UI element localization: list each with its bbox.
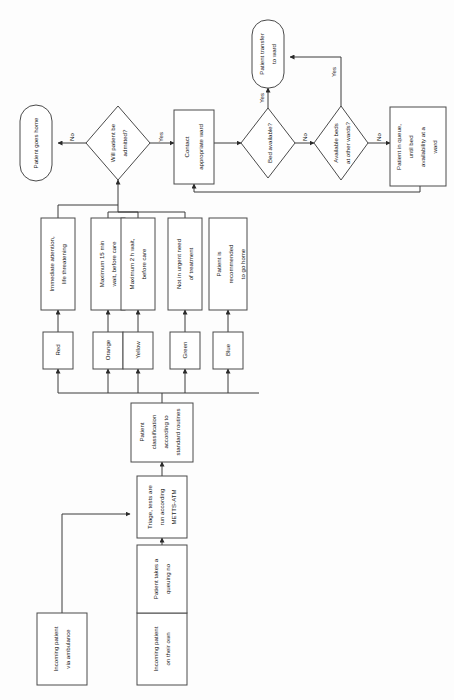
node-patient-goes-home[interactable]: Patient goes home (20, 105, 52, 181)
patient-queue-line4: ward (431, 140, 438, 154)
node-color-orange[interactable]: Orange (93, 332, 123, 369)
blue-desc-line1: Patient is (215, 251, 222, 276)
triage-line3: METTS-ATM (170, 489, 177, 524)
yellow-desc-line2: before care (140, 248, 147, 279)
classification-line2: classification (150, 415, 157, 450)
node-will-patient-be-admitted[interactable]: Will patient be admitted? (86, 106, 150, 180)
node-incoming-ambulance[interactable]: Incoming patient via ambulance (37, 613, 87, 685)
classification-line3: according to (162, 415, 169, 449)
red-desc-line2: life threatening (60, 244, 67, 284)
color-green-label: Green (181, 342, 188, 359)
node-bed-available[interactable]: Bed available? (241, 108, 295, 178)
orange-desc-line2: wait, before care (110, 241, 117, 288)
patient-queue-line1: Patient in queue, (395, 124, 402, 170)
beds-other-line1: Available beds (332, 123, 339, 163)
edge-label-bed-no: No (301, 132, 308, 140)
node-triage[interactable]: Triage, tests are run according METTS-AT… (137, 476, 187, 538)
edge-orangedesc-up (108, 212, 118, 218)
edge-ambulance-to-triage (62, 514, 130, 613)
contact-ward-line2: appropriate ward (197, 124, 204, 170)
edge-classification-bus (58, 393, 259, 403)
yellow-desc-line1: Maximum 2 h wait, (128, 238, 135, 289)
color-yellow-label: Yellow (134, 341, 141, 359)
node-color-green[interactable]: Green (170, 332, 200, 369)
node-red-description[interactable]: Immediate attention, life threatening (41, 218, 75, 310)
blue-desc-line3: to go home (239, 248, 246, 279)
patient-transfer-line2: to ward (270, 44, 277, 64)
edge-label-bed-yes: Yes (258, 93, 265, 103)
edge-greendesc-up (118, 212, 185, 218)
color-blue-label: Blue (224, 343, 231, 356)
node-patient-in-queue[interactable]: Patient in queue, until bed availability… (390, 107, 446, 186)
patient-transfer-line1: Patient transfer (258, 33, 265, 74)
patient-goes-home-label: Patient goes home (32, 117, 39, 168)
node-patient-transfer-to-ward[interactable]: Patient transfer to ward (252, 20, 284, 88)
green-desc-line1: Not in urgent need (175, 239, 182, 289)
node-green-description[interactable]: Not in urgent need of treatment (168, 218, 202, 310)
red-desc-line1: Immediate attention, (48, 236, 55, 292)
classification-line1: Patient (138, 422, 145, 441)
color-orange-label: Orange (104, 339, 111, 360)
flowchart-svg: Incoming patient via ambulance Incoming … (0, 0, 454, 700)
node-color-yellow[interactable]: Yellow (123, 332, 153, 369)
classification-line4: standard routines (174, 408, 181, 455)
incoming-own-line2: on their own (164, 632, 171, 665)
admitted-line1: Will patient be (109, 123, 116, 162)
green-desc-line2: of treatment (187, 247, 194, 280)
admitted-line2: admitted? (121, 129, 128, 156)
beds-other-line2: at other wards? (344, 121, 351, 164)
edge-queue-feedback-to-ward (194, 184, 420, 192)
incoming-ambulance-line2: via ambulance (64, 629, 71, 669)
edge-label-admitted-yes: Yes (157, 132, 164, 142)
node-color-blue[interactable]: Blue (213, 332, 243, 369)
node-orange-description[interactable]: Maximum 15 min wait, before care (91, 218, 125, 310)
node-queuing-no[interactable]: Patient takes a queuing no (137, 545, 187, 613)
edge-label-admitted-no: No (68, 132, 75, 140)
flowchart-canvas: Incoming patient via ambulance Incoming … (0, 0, 454, 700)
node-yellow-description[interactable]: Maximum 2 h wait, before care (121, 218, 155, 310)
edge-otherwards-yes-transfer (290, 57, 341, 117)
incoming-own-line1: Incoming patient (152, 626, 159, 671)
edge-label-other-no: No (375, 132, 382, 140)
edge-yellowdesc-up (118, 212, 138, 218)
node-available-beds-other-wards[interactable]: Available beds at other wards? (314, 106, 368, 180)
triage-line1: Triage, tests are (146, 484, 153, 528)
node-blue-description[interactable]: Patient is recommended to go home (209, 218, 247, 310)
node-color-red[interactable]: Red (43, 332, 73, 369)
node-contact-appropriate-ward[interactable]: Contact appropriate ward (174, 110, 214, 184)
orange-desc-line1: Maximum 15 min (98, 241, 105, 287)
blue-desc-line2: recommended (227, 245, 234, 284)
patient-queue-line3: availability at a (419, 126, 426, 167)
color-red-label: Red (54, 344, 61, 355)
queuing-no-line2: queuing no (164, 563, 171, 594)
contact-ward-line1: Contact (183, 136, 190, 157)
edge-label-other-yes: Yes (330, 67, 337, 77)
node-classification[interactable]: Patient classification according to stan… (131, 403, 193, 462)
incoming-ambulance-line1: Incoming patient (52, 626, 59, 671)
node-incoming-own[interactable]: Incoming patient on their own (137, 613, 187, 685)
triage-line2: run according (158, 489, 165, 526)
patient-queue-line2: until bed (407, 135, 414, 158)
bed-available-label: Bed available? (266, 122, 273, 163)
queuing-no-line1: Patient takes a (152, 558, 159, 599)
